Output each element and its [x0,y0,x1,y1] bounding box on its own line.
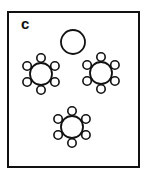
table-circle-icon [30,63,52,85]
seat-circle-icon [97,85,105,93]
seat-circle-icon [51,62,59,70]
seat-circle-icon [82,131,90,139]
seat-circle-icon [23,62,31,70]
seat-circle-icon [83,77,91,85]
seating-diagram [0,0,144,178]
table-circle-icon [90,62,112,84]
seat-circle-icon [111,61,119,69]
lone-circle-icon [61,30,85,54]
seat-circle-icon [68,107,76,115]
seat-circle-icon [82,115,90,123]
table-circle-icon [61,116,83,138]
table-cluster-right [83,53,119,93]
seat-circle-icon [111,77,119,85]
seat-circle-icon [37,86,45,94]
seat-circle-icon [51,78,59,86]
seat-circle-icon [37,54,45,62]
seat-circle-icon [54,115,62,123]
table-cluster-left [23,54,59,94]
table-cluster-bottom [54,107,90,147]
seat-circle-icon [23,78,31,86]
seat-circle-icon [68,139,76,147]
seat-circle-icon [83,61,91,69]
seat-circle-icon [97,53,105,61]
seat-circle-icon [54,131,62,139]
